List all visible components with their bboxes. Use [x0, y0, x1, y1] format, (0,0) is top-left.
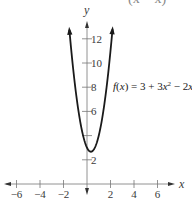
x-axis-right-arrow-icon: [168, 182, 175, 186]
x-tick-label: −6: [11, 188, 23, 200]
curve-right-arrow-icon: [109, 26, 114, 34]
cropped-text-fragment: (x − x): [128, 0, 167, 7]
x-tick-label: 4: [131, 188, 137, 200]
function-graph: (x − x) y x −6−4−2246 2681012 f(x) = 3 +…: [0, 0, 192, 202]
y-axis: y: [83, 3, 90, 195]
y-ticks: 2681012: [82, 33, 103, 166]
y-tick-label: 10: [91, 57, 103, 69]
function-label: f(x) = 3 + 3x2 − 2x: [113, 80, 192, 93]
x-axis-label: x: [178, 177, 185, 191]
y-tick-label: 12: [91, 33, 102, 45]
y-axis-label: y: [83, 3, 90, 17]
y-tick-label: 2: [91, 154, 97, 166]
y-tick-label: 6: [91, 105, 97, 117]
y-axis-down-arrow-icon: [85, 188, 89, 195]
x-tick-label: −2: [58, 188, 70, 200]
curve-left-arrow-icon: [67, 27, 72, 35]
x-tick-label: 2: [108, 188, 114, 200]
x-tick-label: 6: [155, 188, 161, 200]
x-axis-left-arrow-icon: [4, 182, 11, 186]
x-tick-label: −4: [34, 188, 46, 200]
y-tick-label: 8: [91, 81, 97, 93]
y-axis-up-arrow-icon: [85, 21, 89, 28]
